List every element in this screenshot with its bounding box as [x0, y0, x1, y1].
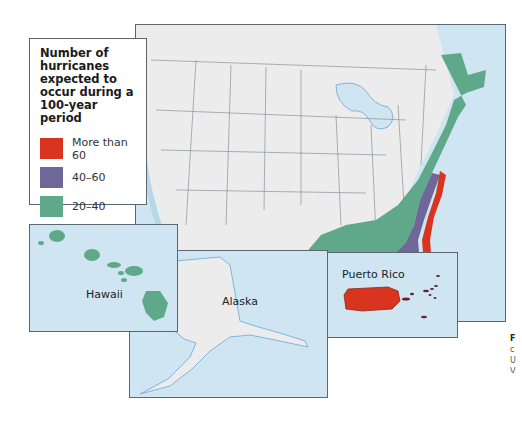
puerto-rico-graphic	[328, 253, 458, 338]
legend: Number of hurricanes expected to occur d…	[29, 38, 147, 205]
inset-puerto-rico	[327, 252, 458, 338]
puerto-rico-label: Puerto Rico	[342, 268, 405, 281]
alaska-label: Alaska	[222, 295, 258, 308]
legend-title: Number of hurricanes expected to occur d…	[40, 47, 137, 125]
legend-item-40-60: 40–60	[40, 163, 137, 192]
caption-char: F	[510, 334, 515, 343]
legend-swatch-purple	[40, 167, 63, 188]
figure-caption-fragment: F c U V	[510, 333, 522, 373]
legend-label: More than 60	[72, 136, 137, 162]
legend-swatch-green	[40, 196, 63, 217]
legend-label: 20–40	[72, 200, 106, 213]
inset-hawaii	[29, 224, 178, 332]
caption-char: V	[510, 366, 522, 373]
legend-swatch-red	[40, 138, 63, 159]
legend-item-more-than-60: More than 60	[40, 134, 137, 163]
caption-char: c	[510, 344, 522, 355]
legend-label: 40–60	[72, 171, 106, 184]
hawaii-islands-graphic	[30, 225, 178, 332]
legend-item-20-40: 20–40	[40, 192, 137, 221]
caption-char: U	[510, 355, 522, 366]
legend-title-line: 100-year period	[40, 99, 137, 125]
hawaii-label: Hawaii	[86, 288, 123, 301]
